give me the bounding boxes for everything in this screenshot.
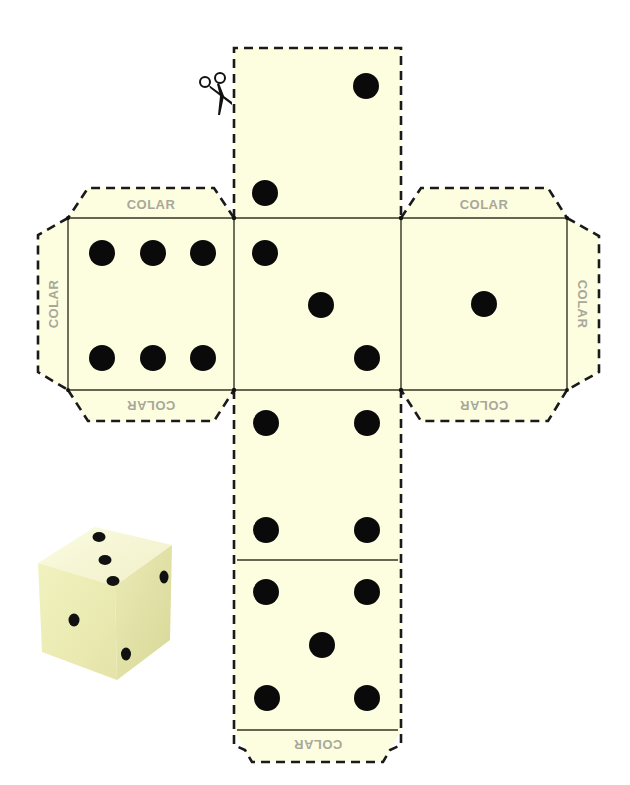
- assembled-die-illustration: [38, 527, 172, 680]
- tab-label-right-top: COLAR: [460, 197, 509, 212]
- tab-label-left-side: COLAR: [46, 280, 61, 329]
- tab-label-right-side: COLAR: [575, 280, 590, 329]
- tab-label-right-bottom: COLAR: [460, 398, 509, 413]
- tab-label-left-top: COLAR: [127, 197, 176, 212]
- scissors-icon: [200, 73, 232, 115]
- tab-label-left-bottom: COLAR: [127, 398, 176, 413]
- tab-label-bottom: COLAR: [294, 737, 343, 752]
- face-right-pips: [471, 291, 497, 317]
- dice-net-template: COLAR COLAR COLAR COLAR COLAR COLAR COLA…: [0, 0, 630, 785]
